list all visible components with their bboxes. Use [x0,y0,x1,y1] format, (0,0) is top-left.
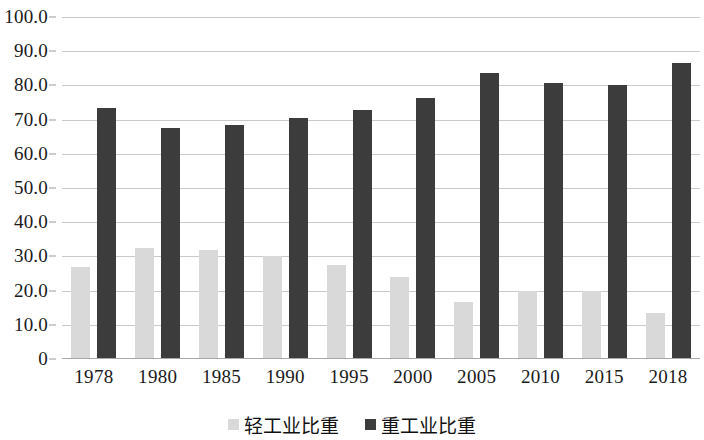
x-axis-tick-label: 1978 [62,366,126,398]
bar-2005-heavy-industry [480,73,499,359]
bar-1978-heavy-industry [97,108,116,359]
bar-group [190,17,254,359]
y-axis-tick-mark [49,222,56,223]
bar-1990-heavy-industry [289,118,308,359]
y-axis-tick-label: 70.0 [14,109,48,131]
x-axis: 1978198019851990199520002005201020152018 [62,366,700,398]
y-axis: 100.090.080.070.060.050.040.030.020.010.… [0,0,56,380]
bar-groups [62,17,700,359]
bar-group [381,17,445,359]
x-axis-tick-label: 2010 [509,366,573,398]
x-axis-tick-label: 2005 [445,366,509,398]
y-axis-tick-label: 10.0 [14,314,48,336]
bar-group [62,17,126,359]
bar-1980-heavy-industry [161,128,180,359]
bar-2010-light-industry [518,291,537,359]
bar-1980-light-industry [135,248,154,359]
bar-1995-heavy-industry [353,110,372,359]
chart-legend: 轻工业比重重工业比重 [0,408,704,440]
y-axis-tick-label: 90.0 [14,40,48,62]
x-axis-tick-label: 2000 [381,366,445,398]
x-axis-tick-label: 1990 [253,366,317,398]
legend-item-label: 重工业比重 [381,411,476,438]
bar-1990-light-industry [263,256,282,359]
bar-2010-heavy-industry [544,83,563,359]
x-axis-tick-label: 2018 [636,366,700,398]
bar-1985-heavy-industry [225,125,244,359]
bar-2015-light-industry [582,291,601,359]
bar-2005-light-industry [454,302,473,359]
y-axis-tick-mark [49,153,56,154]
bar-chart: 100.090.080.070.060.050.040.030.020.010.… [0,0,704,440]
y-axis-tick-label: 80.0 [14,74,48,96]
y-axis-tick-label: 20.0 [14,280,48,302]
y-axis-tick-mark [49,17,56,18]
legend-item-label: 轻工业比重 [244,411,339,438]
y-axis-tick-label: 50.0 [14,177,48,199]
bar-2000-heavy-industry [416,98,435,359]
y-axis-tick-label: 100.0 [4,6,48,28]
y-axis-tick-mark [49,119,56,120]
y-axis-tick-mark [49,324,56,325]
plot-area [62,17,700,359]
x-axis-tick-label: 1980 [126,366,190,398]
bar-group [253,17,317,359]
y-axis-tick-label: 40.0 [14,211,48,233]
bar-group [509,17,573,359]
bar-group [572,17,636,359]
y-axis-tick-mark [49,256,56,257]
bar-group [317,17,381,359]
y-axis-tick-label: 60.0 [14,143,48,165]
x-axis-tick-label: 1995 [317,366,381,398]
legend-swatch-icon [365,419,376,430]
y-axis-tick-mark [49,85,56,86]
bar-2015-heavy-industry [608,85,627,359]
legend-item[interactable]: 重工业比重 [365,411,476,438]
y-axis-tick-label: 0 [38,348,48,370]
y-axis-tick-mark [49,188,56,189]
bar-1978-light-industry [71,267,90,359]
bar-group [636,17,700,359]
bar-group [445,17,509,359]
legend-item[interactable]: 轻工业比重 [228,411,339,438]
bar-2000-light-industry [390,277,409,359]
bar-2018-heavy-industry [672,63,691,359]
legend-swatch-icon [228,419,239,430]
x-axis-tick-label: 1985 [190,366,254,398]
y-axis-tick-mark [49,359,56,360]
y-axis-tick-mark [49,51,56,52]
bar-group [126,17,190,359]
y-axis-tick-label: 30.0 [14,245,48,267]
axis-baseline [62,358,700,359]
bar-1985-light-industry [199,250,218,359]
y-axis-tick-mark [49,290,56,291]
bar-1995-light-industry [327,265,346,359]
x-axis-tick-label: 2015 [572,366,636,398]
bar-2018-light-industry [646,313,665,359]
